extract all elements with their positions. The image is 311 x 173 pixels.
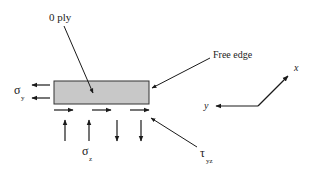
- x-axis-label: x: [293, 62, 299, 73]
- sigma-y-symbol: σ: [14, 83, 21, 97]
- ply-rectangle: [54, 81, 149, 104]
- sigma-z-subscript: z: [89, 155, 92, 163]
- y-axis-label: y: [203, 100, 209, 111]
- free-edge-stress-diagram: 0 ply Free edge σ y σ z τ yz y x: [0, 0, 311, 173]
- tau-yz-arrow: [151, 118, 197, 147]
- x-axis-arrow: [258, 76, 288, 106]
- ply-label: 0 ply: [49, 11, 72, 23]
- free-edge-arrow: [152, 58, 210, 88]
- tau-yz-symbol: τ: [200, 146, 205, 160]
- sigma-z-symbol: σ: [82, 144, 89, 158]
- free-edge-label: Free edge: [213, 49, 253, 60]
- sigma-y-subscript: y: [21, 94, 25, 102]
- diagram-svg: 0 ply Free edge σ y σ z τ yz y x: [0, 0, 311, 173]
- tau-yz-subscript: yz: [206, 157, 213, 165]
